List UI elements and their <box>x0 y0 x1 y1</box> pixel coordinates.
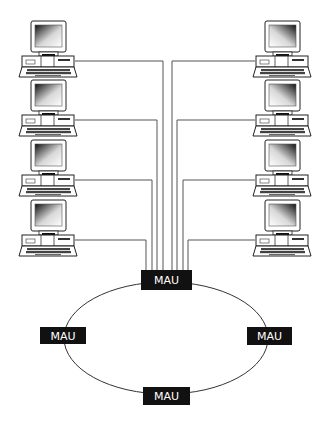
computer-icon <box>253 140 311 196</box>
token-ring-diagram: MAUMAUMAUMAU <box>0 0 330 430</box>
network-cable <box>75 180 152 270</box>
computer-icon <box>19 140 77 196</box>
mau-left: MAU <box>40 327 86 344</box>
network-cable <box>75 120 157 270</box>
computer-icon <box>19 200 77 256</box>
computer-icon <box>19 80 77 136</box>
mau-label: MAU <box>50 330 75 343</box>
network-cable <box>183 180 255 270</box>
network-cable <box>177 120 255 270</box>
network-cable <box>172 61 255 270</box>
computer-icon <box>253 200 311 256</box>
mau-bottom: MAU <box>143 387 190 405</box>
workstations <box>19 21 311 256</box>
computer-icon <box>253 21 311 77</box>
computer-icon <box>19 21 77 77</box>
network-cable <box>75 240 146 270</box>
ring-ellipse <box>64 282 268 394</box>
mau-right: MAU <box>247 327 292 345</box>
mau-top: MAU <box>141 270 192 290</box>
network-cable <box>188 240 255 270</box>
computer-icon <box>253 80 311 136</box>
ring-cable <box>64 282 268 394</box>
network-cable <box>75 61 163 270</box>
cabling <box>75 61 255 270</box>
mau-label: MAU <box>154 274 179 287</box>
mau-label: MAU <box>257 330 282 343</box>
mau-label: MAU <box>154 390 179 403</box>
mau-units: MAUMAUMAUMAU <box>40 270 292 405</box>
